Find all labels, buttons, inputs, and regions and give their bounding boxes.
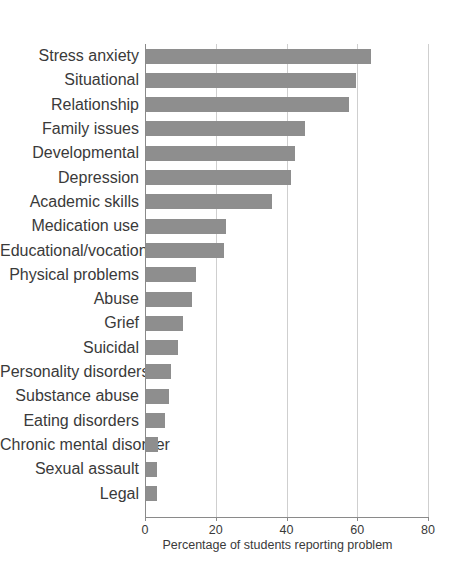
category-label: Eating disorders [0, 412, 139, 430]
table-row [146, 457, 429, 481]
table-row [146, 336, 429, 360]
bar-depression [146, 170, 291, 185]
category-label-row: Legal [0, 481, 139, 505]
table-row [146, 214, 429, 238]
bar-relationship [146, 97, 349, 112]
page-corner-artifact [0, 0, 16, 7]
x-tick-label: 80 [408, 523, 448, 537]
bar-medication-use [146, 219, 226, 234]
bar-abuse [146, 292, 192, 307]
category-label-row: Substance abuse [0, 384, 139, 408]
category-label: Stress anxiety [0, 47, 139, 65]
bar-grief [146, 316, 183, 331]
category-label-row: Chronic mental disorder [0, 433, 139, 457]
category-label-row: Educational/vocational [0, 238, 139, 262]
x-tick-20 [216, 517, 217, 521]
x-tick-0 [145, 517, 146, 521]
table-row [146, 238, 429, 262]
category-label: Educational/vocational [0, 242, 139, 260]
category-label: Depression [0, 169, 139, 187]
bar-legal [146, 486, 157, 501]
x-tick-40 [287, 517, 288, 521]
bar-educational-vocational [146, 243, 224, 258]
x-tick-60 [357, 517, 358, 521]
category-label-row: Academic skills [0, 190, 139, 214]
table-row [146, 117, 429, 141]
category-label: Physical problems [0, 266, 139, 284]
bar-suicidal [146, 340, 178, 355]
category-label-row: Abuse [0, 287, 139, 311]
category-label: Medication use [0, 217, 139, 235]
bar-chart-figure: Stress anxiety Situational Relationship … [0, 0, 459, 581]
table-row [146, 68, 429, 92]
category-label: Situational [0, 71, 139, 89]
category-label-row: Situational [0, 68, 139, 92]
x-tick-label: 20 [196, 523, 236, 537]
table-row [146, 433, 429, 457]
bar-situational [146, 73, 356, 88]
table-row [146, 141, 429, 165]
bar-eating-disorders [146, 413, 165, 428]
category-label: Suicidal [0, 339, 139, 357]
bar-chronic-mental-disorder [146, 437, 158, 452]
category-label-row: Suicidal [0, 336, 139, 360]
category-label-row: Stress anxiety [0, 44, 139, 68]
table-row [146, 166, 429, 190]
category-label-row: Relationship [0, 93, 139, 117]
table-row [146, 44, 429, 68]
bar-developmental [146, 146, 295, 161]
category-label-row: Depression [0, 166, 139, 190]
category-label: Developmental [0, 144, 139, 162]
bar-series [146, 44, 429, 517]
category-axis-labels: Stress anxiety Situational Relationship … [0, 44, 139, 517]
table-row [146, 311, 429, 335]
category-label: Substance abuse [0, 387, 139, 405]
category-label: Chronic mental disorder [0, 436, 139, 454]
x-tick-label: 60 [337, 523, 377, 537]
category-label: Grief [0, 314, 139, 332]
table-row [146, 287, 429, 311]
category-label: Legal [0, 485, 139, 503]
plot-area: 0 20 40 60 80 [145, 44, 428, 517]
bar-physical-problems [146, 267, 196, 282]
table-row [146, 409, 429, 433]
table-row [146, 190, 429, 214]
category-label-row: Eating disorders [0, 409, 139, 433]
x-tick-label: 0 [125, 523, 165, 537]
category-label-row: Medication use [0, 214, 139, 238]
table-row [146, 263, 429, 287]
bar-academic-skills [146, 194, 272, 209]
table-row [146, 93, 429, 117]
category-label-row: Personality disorders [0, 360, 139, 384]
category-label-row: Physical problems [0, 263, 139, 287]
bar-personality-disorders [146, 364, 171, 379]
x-axis-title-wrap: Percentage of students reporting problem [0, 538, 459, 552]
category-label: Abuse [0, 290, 139, 308]
category-label: Academic skills [0, 193, 139, 211]
bar-stress-anxiety [146, 49, 371, 64]
bar-sexual-assault [146, 462, 157, 477]
table-row [146, 360, 429, 384]
bar-substance-abuse [146, 389, 169, 404]
table-row [146, 384, 429, 408]
bar-family-issues [146, 121, 305, 136]
category-label: Relationship [0, 96, 139, 114]
category-label-row: Grief [0, 311, 139, 335]
table-row [146, 481, 429, 505]
x-axis-title: Percentage of students reporting problem [163, 538, 393, 552]
category-label-row: Sexual assault [0, 457, 139, 481]
category-label-row: Developmental [0, 141, 139, 165]
category-label: Personality disorders [0, 363, 139, 381]
category-label: Sexual assault [0, 460, 139, 478]
x-tick-label: 40 [267, 523, 307, 537]
category-label: Family issues [0, 120, 139, 138]
category-label-row: Family issues [0, 117, 139, 141]
x-tick-80 [428, 517, 429, 521]
